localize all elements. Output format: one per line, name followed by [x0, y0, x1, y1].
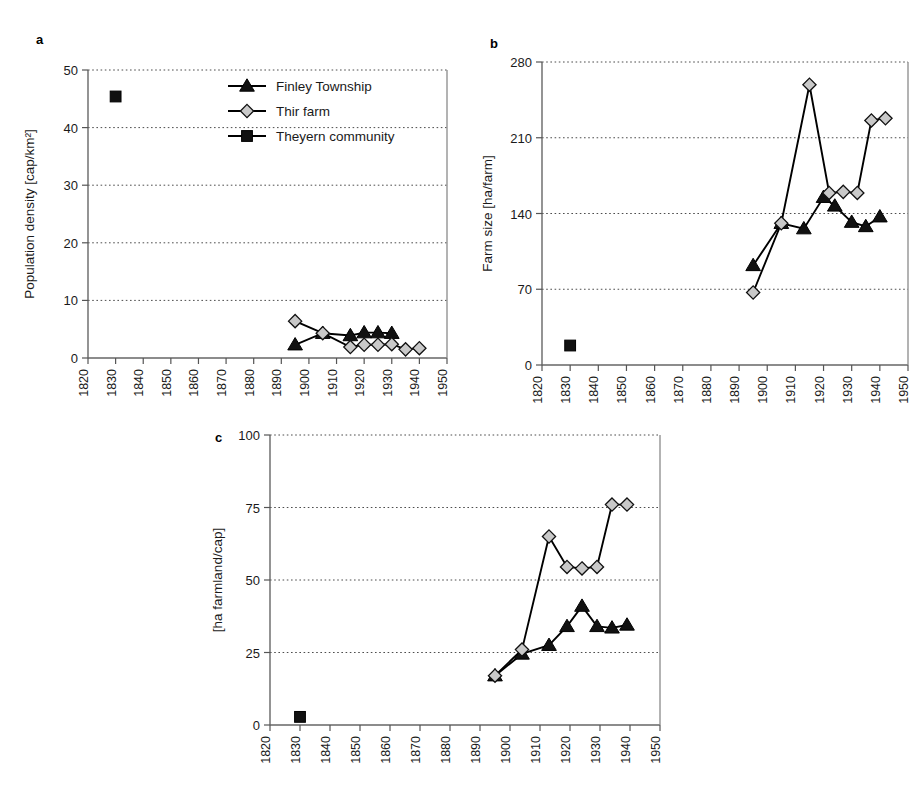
data-point-diamond	[560, 560, 573, 573]
x-tick-label: 1840	[132, 369, 146, 397]
legend-label: Finley Township	[276, 79, 372, 94]
x-tick-label: 1940	[869, 376, 883, 404]
x-tick-label: 1820	[77, 369, 91, 397]
data-point-triangle	[590, 619, 605, 631]
x-tick-label: 1910	[784, 376, 798, 404]
legend-marker-diamond	[240, 104, 253, 117]
x-tick-label: 1870	[215, 369, 229, 397]
x-tick-label: 1820	[531, 376, 545, 404]
data-series	[295, 498, 635, 722]
x-tick-label: 1830	[559, 376, 573, 404]
y-tick-label: 280	[510, 55, 532, 70]
data-point-diamond	[605, 498, 618, 511]
y-tick-label: 75	[246, 501, 260, 516]
x-tick-label: 1950	[649, 736, 663, 764]
x-tick-label: 1870	[409, 736, 423, 764]
legend-entry-2: Thir farm	[228, 104, 330, 119]
x-tick-label: 1850	[349, 736, 363, 764]
panel-c-plot: 0255075100182018301840185018601870188018…	[190, 412, 690, 800]
legend-label: Theyern community	[276, 129, 395, 144]
data-point-diamond	[575, 562, 588, 575]
data-point-triangle	[357, 325, 372, 337]
x-tick-label: 1910	[326, 369, 340, 397]
panel-a: a 01020304050182018301840185018601870188…	[0, 0, 470, 420]
series-line	[753, 85, 885, 293]
y-tick-label: 20	[64, 236, 78, 251]
y-tick-label: 50	[246, 573, 260, 588]
x-tick-label: 1950	[897, 376, 911, 404]
series-3	[110, 91, 121, 102]
axes	[264, 435, 660, 731]
x-tick-label: 1890	[728, 376, 742, 404]
data-series	[565, 78, 892, 351]
data-point-diamond	[837, 185, 850, 198]
x-tick-label: 1890	[270, 369, 284, 397]
x-tick-label: 1900	[499, 736, 513, 764]
data-point-triangle	[575, 599, 590, 611]
x-tick-label: 1890	[469, 736, 483, 764]
data-point-triangle	[746, 258, 761, 270]
x-tick-label: 1920	[813, 376, 827, 404]
data-point-diamond	[358, 338, 371, 351]
y-tick-label: 100	[238, 428, 260, 443]
panel-b-plot: 0701402102801820183018401850186018701880…	[462, 0, 924, 420]
x-tick-label: 1820	[259, 736, 273, 764]
data-point-square	[295, 711, 306, 722]
x-tick-label: 1950	[436, 369, 450, 397]
data-point-diamond	[620, 498, 633, 511]
x-tick-label: 1900	[298, 369, 312, 397]
y-tick-label: 0	[71, 351, 78, 366]
data-point-diamond	[590, 560, 603, 573]
x-tick-label: 1840	[319, 736, 333, 764]
y-tick-label: 10	[64, 293, 78, 308]
data-point-triangle	[371, 325, 386, 337]
x-tick-label: 1920	[353, 369, 367, 397]
axes	[82, 70, 447, 364]
data-point-diamond	[851, 186, 864, 199]
x-tick-label: 1870	[672, 376, 686, 404]
x-tick-label: 1880	[439, 736, 453, 764]
data-point-diamond	[879, 112, 892, 125]
data-point-diamond	[747, 286, 760, 299]
x-tick-label: 1930	[589, 736, 603, 764]
data-point-triangle	[288, 338, 303, 350]
y-axis-title: Farm size [ha/farm]	[480, 155, 495, 271]
y-tick-label: 50	[64, 63, 78, 78]
series-line	[495, 505, 627, 676]
y-axis-title: [ha farmland/cap]	[210, 528, 225, 632]
data-point-square	[565, 340, 576, 351]
data-point-diamond	[542, 530, 555, 543]
data-point-diamond	[344, 340, 357, 353]
legend: Finley TownshipThir farmTheyern communit…	[228, 79, 395, 144]
x-tick-label: 1880	[243, 369, 257, 397]
series-2	[289, 315, 426, 356]
x-tick-label: 1860	[644, 376, 658, 404]
x-tick-label: 1850	[615, 376, 629, 404]
data-point-diamond	[289, 315, 302, 328]
x-tick-label: 1880	[700, 376, 714, 404]
x-tick-label: 1920	[559, 736, 573, 764]
gridlines	[88, 70, 447, 300]
panel-c: c 02550751001820183018401850186018701880…	[190, 412, 690, 800]
data-point-triangle	[620, 618, 635, 630]
y-tick-label: 140	[510, 207, 532, 222]
x-tick-label: 1910	[529, 736, 543, 764]
y-axis-title: Population density [cap/km²]	[22, 129, 37, 299]
series-3	[295, 711, 306, 722]
data-point-diamond	[385, 338, 398, 351]
x-tick-label: 1830	[105, 369, 119, 397]
panel-a-plot: 0102030405018201830184018501860187018801…	[0, 0, 470, 420]
data-point-diamond	[371, 338, 384, 351]
x-tick-label: 1830	[289, 736, 303, 764]
series-1	[488, 599, 635, 681]
series-2	[747, 78, 893, 299]
x-tick-label: 1850	[160, 369, 174, 397]
axis-labels: 0102030405018201830184018501860187018801…	[22, 63, 450, 397]
x-tick-label: 1930	[381, 369, 395, 397]
legend-label: Thir farm	[276, 104, 330, 119]
legend-marker-triangle	[240, 79, 255, 91]
y-tick-label: 30	[64, 178, 78, 193]
data-point-square	[110, 91, 121, 102]
figure-canvas: a 01020304050182018301840185018601870188…	[0, 0, 924, 800]
y-tick-label: 0	[525, 358, 532, 373]
